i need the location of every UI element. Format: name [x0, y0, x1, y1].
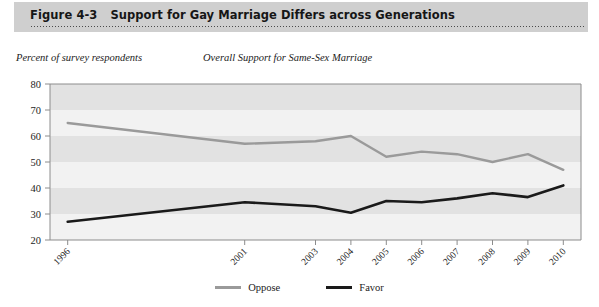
y-axis-tick-labels: 20304050607080 — [31, 79, 42, 246]
svg-text:60: 60 — [31, 131, 42, 142]
svg-text:50: 50 — [31, 157, 42, 168]
svg-text:30: 30 — [31, 209, 42, 220]
svg-text:20: 20 — [31, 235, 42, 246]
svg-text:2008: 2008 — [476, 246, 497, 267]
svg-text:70: 70 — [31, 105, 42, 116]
x-axis-ticks — [68, 240, 564, 245]
svg-text:2005: 2005 — [370, 246, 391, 267]
legend-item-favor: Favor — [326, 282, 384, 293]
legend-label-favor: Favor — [359, 282, 384, 293]
svg-text:2004: 2004 — [335, 246, 356, 267]
svg-text:2006: 2006 — [406, 246, 427, 267]
y-axis-ticks — [45, 84, 50, 240]
svg-text:1996: 1996 — [52, 246, 73, 267]
legend-item-oppose: Oppose — [215, 282, 280, 293]
svg-text:2009: 2009 — [512, 246, 533, 267]
svg-text:2003: 2003 — [299, 246, 320, 267]
plot-background-bands — [50, 84, 581, 240]
svg-text:80: 80 — [31, 79, 42, 90]
legend-swatch-favor — [326, 286, 352, 289]
chart-plot-area: 20304050607080 1996200120032004200520062… — [0, 0, 599, 307]
legend-label-oppose: Oppose — [248, 282, 280, 293]
svg-text:2001: 2001 — [229, 246, 250, 267]
line-chart-svg: 20304050607080 1996200120032004200520062… — [0, 0, 599, 307]
svg-text:2007: 2007 — [441, 246, 462, 267]
chart-legend: Oppose Favor — [0, 282, 599, 293]
x-axis-tick-labels: 1996200120032004200520062007200820092010 — [52, 246, 568, 267]
svg-text:40: 40 — [31, 183, 42, 194]
legend-swatch-oppose — [215, 286, 241, 289]
svg-text:2010: 2010 — [547, 246, 568, 267]
